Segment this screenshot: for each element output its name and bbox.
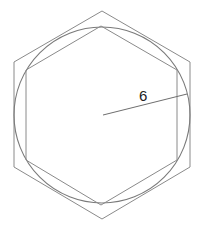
geometry-diagram: 6 [0, 0, 200, 229]
radius-label: 6 [139, 87, 147, 104]
inner-hexagon [26, 26, 177, 205]
outer-hexagon [14, 11, 190, 219]
circle [14, 27, 190, 203]
